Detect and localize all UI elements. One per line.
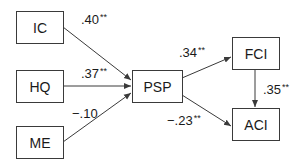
coef-fci-aci: .35** (263, 83, 289, 96)
significance-marker: ** (194, 113, 201, 123)
significance-marker: ** (198, 45, 205, 55)
coef-value: −.23 (167, 113, 193, 128)
coef-value: .37 (81, 66, 99, 81)
node-me-label: ME (30, 135, 51, 151)
edge-psp-fci (182, 57, 231, 78)
coef-psp-fci: .34** (179, 46, 205, 59)
coef-value: .35 (263, 82, 281, 97)
coef-value: .40 (81, 12, 99, 27)
coef-psp-aci: −.23** (167, 114, 201, 127)
node-psp: PSP (132, 70, 183, 103)
significance-marker: ** (100, 12, 107, 22)
node-ic: IC (16, 11, 64, 44)
path-diagram: IC HQ ME PSP FCI ACI .40** .37** −.10 .3… (0, 0, 305, 167)
node-aci-label: ACI (244, 117, 267, 133)
coef-value: −.10 (72, 106, 98, 121)
node-hq-label: HQ (30, 79, 51, 95)
node-fci: FCI (232, 37, 280, 70)
coef-hq-psp: .37** (81, 67, 107, 80)
coef-me-psp: −.10 (72, 107, 99, 120)
node-fci-label: FCI (245, 46, 268, 62)
coef-ic-psp: .40** (81, 13, 107, 26)
significance-marker: ** (100, 66, 107, 76)
node-hq: HQ (16, 70, 64, 103)
node-aci: ACI (232, 108, 280, 141)
node-ic-label: IC (33, 20, 47, 36)
significance-marker: ** (282, 82, 289, 92)
coef-value: .34 (179, 45, 197, 60)
node-me: ME (16, 126, 64, 159)
node-psp-label: PSP (143, 79, 171, 95)
